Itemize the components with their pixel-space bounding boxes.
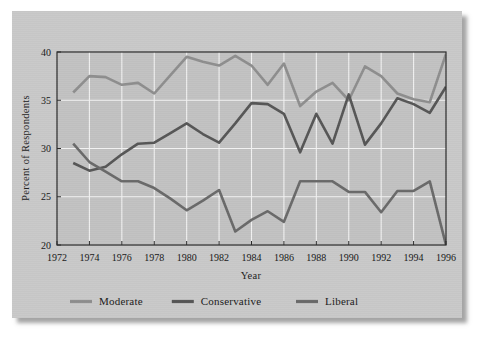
y-tick-label: 30 bbox=[41, 143, 51, 154]
x-tick-label: 1982 bbox=[209, 252, 229, 263]
y-tick-label: 35 bbox=[41, 95, 51, 106]
legend-label-liberal: Liberal bbox=[325, 295, 358, 307]
x-tick-label: 1974 bbox=[79, 252, 99, 263]
figure-page: 1972197419761978198019821984198619881990… bbox=[0, 0, 477, 341]
legend-label-moderate: Moderate bbox=[99, 295, 143, 307]
x-tick-label: 1978 bbox=[144, 252, 164, 263]
x-tick-label: 1972 bbox=[47, 252, 67, 263]
figure-card: 1972197419761978198019821984198619881990… bbox=[12, 11, 462, 318]
chart-legend: ModerateConservativeLiberal bbox=[70, 295, 358, 307]
x-tick-label: 1988 bbox=[306, 252, 326, 263]
line-chart-figure: 1972197419761978198019821984198619881990… bbox=[12, 11, 462, 318]
x-tick-label: 1996 bbox=[436, 252, 456, 263]
x-tick-label: 1992 bbox=[371, 252, 391, 263]
y-tick-label: 20 bbox=[41, 240, 51, 251]
legend-label-conservative: Conservative bbox=[201, 295, 261, 307]
y-tick-label: 25 bbox=[41, 191, 51, 202]
x-tick-label: 1990 bbox=[339, 252, 359, 263]
x-tick-label: 1980 bbox=[177, 252, 197, 263]
chart-svg: 1972197419761978198019821984198619881990… bbox=[12, 11, 462, 318]
y-axis-title: Percent of Respondents bbox=[20, 95, 31, 201]
y-tick-label: 40 bbox=[41, 47, 51, 58]
x-tick-label: 1986 bbox=[274, 252, 294, 263]
x-axis-title: Year bbox=[241, 270, 262, 281]
x-tick-label: 1976 bbox=[112, 252, 132, 263]
x-tick-label: 1994 bbox=[404, 252, 424, 263]
x-tick-label: 1984 bbox=[242, 252, 262, 263]
